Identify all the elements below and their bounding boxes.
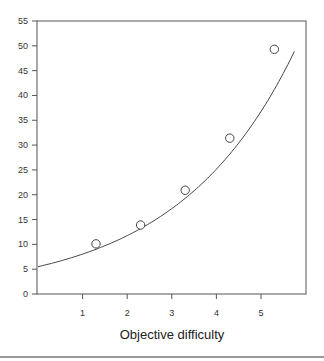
y-tick-label: 35 xyxy=(18,115,28,125)
y-tick-label: 25 xyxy=(18,165,28,175)
divider xyxy=(0,356,324,358)
chart: 051015202530354045505512345Objective dif… xyxy=(0,0,324,361)
x-tick-label: 1 xyxy=(80,308,85,318)
data-point xyxy=(226,134,234,142)
y-tick-label: 30 xyxy=(18,140,28,150)
y-tick-label: 40 xyxy=(18,90,28,100)
x-tick-label: 2 xyxy=(125,308,130,318)
y-tick-label: 15 xyxy=(18,215,28,225)
data-point xyxy=(92,240,100,248)
fitted-curve xyxy=(38,51,294,266)
plot-frame xyxy=(37,21,306,294)
data-point xyxy=(136,221,144,229)
y-tick-label: 45 xyxy=(18,66,28,76)
y-tick-label: 50 xyxy=(18,41,28,51)
x-tick-label: 3 xyxy=(169,308,174,318)
y-tick-label: 0 xyxy=(23,289,28,299)
x-tick-label: 5 xyxy=(258,308,263,318)
data-point xyxy=(181,186,189,194)
y-tick-label: 55 xyxy=(18,16,28,26)
x-axis-title: Objective difficulty xyxy=(120,327,225,342)
y-tick-label: 10 xyxy=(18,239,28,249)
x-tick-label: 4 xyxy=(214,308,219,318)
data-point xyxy=(270,45,278,53)
y-tick-label: 5 xyxy=(23,264,28,274)
y-tick-label: 20 xyxy=(18,190,28,200)
